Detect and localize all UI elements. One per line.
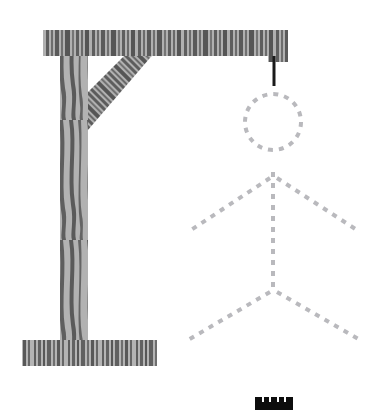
- word-blank-gap-2: [269, 397, 271, 402]
- hangman-drawing: [0, 0, 381, 410]
- word-blank-gap-1: [262, 397, 264, 402]
- word-blanks[interactable]: [255, 397, 293, 410]
- word-blank-gap-4: [284, 397, 286, 402]
- gallows-top-beam: [43, 30, 288, 56]
- word-blank-gap-3: [277, 397, 279, 402]
- gallows-beam-end-block: [268, 56, 288, 62]
- hangman-canvas: Hangman dashed 5 gallows hangman-stick-f…: [0, 0, 381, 410]
- gallows-base-plank: [22, 340, 157, 366]
- gallows-vertical-post: [60, 30, 88, 348]
- word-blanks-bar: [255, 397, 293, 410]
